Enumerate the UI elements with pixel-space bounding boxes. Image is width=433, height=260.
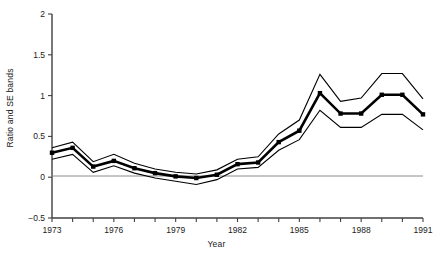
data-point-marker	[153, 171, 157, 175]
data-point-marker	[297, 128, 301, 132]
x-tick-label: 1979	[166, 225, 185, 235]
data-point-marker	[380, 93, 384, 97]
data-point-marker	[256, 160, 260, 164]
data-point-marker	[338, 111, 342, 115]
data-point-marker	[359, 111, 363, 115]
x-axis-label: Year	[0, 239, 433, 249]
data-point-marker	[400, 93, 404, 97]
x-axis-tick-labels: 1973197619791982198519881991	[43, 225, 433, 235]
line-chart-plot: −0.500.511.52 19731976197919821985198819…	[0, 0, 433, 260]
data-point-marker	[173, 174, 177, 178]
data-point-marker	[112, 159, 116, 163]
y-tick-label: 1.5	[33, 50, 45, 60]
ratio-series-markers	[50, 91, 425, 180]
data-point-marker	[277, 140, 281, 144]
x-tick-label: 1988	[352, 225, 371, 235]
y-tick-label: 0.5	[33, 131, 45, 141]
x-tick-label: 1976	[104, 225, 123, 235]
x-tick-label: 1982	[228, 225, 247, 235]
data-point-marker	[50, 151, 54, 155]
data-point-marker	[194, 176, 198, 180]
x-tick-label: 1991	[414, 225, 433, 235]
data-point-marker	[318, 91, 322, 95]
chart-figure: Ratio and SE bands −0.500.511.52 1973197…	[0, 0, 433, 260]
data-point-marker	[421, 112, 425, 116]
data-point-marker	[70, 146, 74, 150]
y-tick-label: 2	[40, 9, 45, 19]
y-tick-label: 0	[40, 172, 45, 182]
data-point-marker	[91, 164, 95, 168]
data-point-marker	[235, 162, 239, 166]
y-tick-label: −0.5	[28, 213, 45, 223]
y-tick-label: 1	[40, 91, 45, 101]
data-point-marker	[215, 173, 219, 177]
data-point-marker	[132, 166, 136, 170]
y-axis-tick-labels: −0.500.511.52	[28, 9, 45, 223]
x-tick-label: 1973	[43, 225, 62, 235]
x-tick-label: 1985	[290, 225, 309, 235]
lower-se-band-line	[52, 110, 423, 184]
